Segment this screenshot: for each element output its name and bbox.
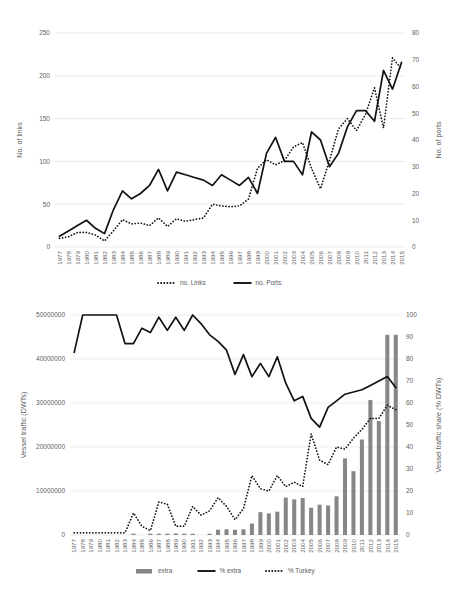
legend: no. Linksno. Ports (158, 279, 281, 286)
x-axis-tick-label: 2005 (308, 250, 315, 264)
x-axis-tick-label: 1993 (200, 250, 207, 264)
x-axis-tick-label: 1989 (172, 538, 179, 552)
x-axis-tick-label: 1992 (197, 538, 204, 552)
x-axis-tick-label: 2002 (282, 538, 289, 552)
x-axis-tick-label: 2015 (392, 538, 399, 552)
y2-axis-ticks-group: 0102030405060708090100 (406, 311, 417, 538)
y-axis-tick-label: 40000000 (36, 355, 65, 362)
x-axis-tick-label: 1999 (254, 250, 261, 264)
y-axis-tick-label: 0 (61, 531, 65, 538)
bar (131, 534, 135, 535)
x-axis-tick-label: 2009 (341, 538, 348, 552)
y2-axis-tick-label: 80 (412, 29, 420, 36)
x-axis-tick-label: 2001 (274, 538, 281, 552)
x-axis-tick-label: 2000 (265, 538, 272, 552)
legend-label: no. Ports (256, 279, 282, 286)
x-axis-tick-label: 1979 (87, 538, 94, 552)
x-axis-tick-label: 2009 (344, 250, 351, 264)
x-axis-tick-label: 2011 (358, 538, 365, 552)
y-axis-tick-label: 50 (43, 201, 51, 208)
legend: extra% extra% Turkey (136, 567, 315, 575)
bar (318, 505, 322, 535)
y2-axis-tick-label: 30 (412, 163, 420, 170)
y2-axis-title: Vessel traffic share (% DWTs) (434, 378, 443, 473)
bar (377, 421, 381, 535)
y2-axis-tick-label: 50 (412, 110, 420, 117)
x-axis-tick-label: 2003 (290, 250, 297, 264)
y2-axis-tick-label: 0 (406, 531, 410, 538)
bar (165, 534, 169, 535)
y2-axis-tick-label: 70 (412, 56, 420, 63)
y2-axis-tick-label: 50 (406, 421, 414, 428)
y-axis-tick-label: 150 (39, 115, 50, 122)
bar (208, 534, 212, 535)
y2-axis-tick-label: 60 (412, 83, 420, 90)
x-axis-tick-label: 2006 (316, 538, 323, 552)
x-axis-tick-label: 1994 (214, 538, 221, 552)
bar (275, 512, 279, 535)
x-axis-tick-label: 2004 (299, 538, 306, 552)
legend-label: % extra (220, 567, 242, 574)
x-axis-tick-label: 1982 (101, 250, 108, 264)
bar (301, 498, 305, 535)
bar (343, 458, 347, 535)
y2-axis-tick-label: 10 (406, 509, 414, 516)
y2-axis-tick-label: 10 (412, 217, 420, 224)
x-axis-tick-label: 1990 (173, 250, 180, 264)
y2-axis-tick-label: 90 (406, 333, 414, 340)
bar (292, 499, 296, 535)
x-axis-tick-label: 1998 (248, 538, 255, 552)
x-axis-tick-label: 2010 (353, 250, 360, 264)
x-axis-tick-label: 2011 (362, 250, 369, 264)
figure-root: 05010015020025001020304050607080No. of l… (0, 0, 460, 594)
x-axis-tick-label: 1994 (209, 250, 216, 264)
x-axis-tick-label: 2005 (307, 538, 314, 552)
x-axis-tick-label: 1995 (223, 538, 230, 552)
y-axis-tick-label: 20000000 (36, 443, 65, 450)
chart-top-svg: 05010015020025001020304050607080No. of l… (0, 0, 460, 300)
line-series--extra (74, 315, 396, 427)
line-series-no.-Ports (60, 62, 402, 236)
x-axis-tick-label: 2006 (317, 250, 324, 264)
x-axis-tick-label: 1985 (128, 250, 135, 264)
y-axis-tick-label: 250 (39, 29, 50, 36)
x-axis-tick-label: 1978 (79, 538, 86, 552)
bar (326, 506, 330, 535)
y2-axis-tick-label: 60 (406, 399, 414, 406)
x-axis-tick-label: 1987 (146, 250, 153, 264)
x-axis-tick-label: 2008 (333, 538, 340, 552)
line-series--Turkey (74, 405, 396, 533)
y-axis-tick-label: 0 (46, 243, 50, 250)
y2-axis-tick-label: 40 (412, 136, 420, 143)
x-axis-ticks-group: 1977197819791980198119821983198419851986… (56, 250, 405, 264)
x-axis-tick-label: 1992 (191, 250, 198, 264)
y2-axis-title: No. of ports (434, 121, 443, 159)
y-axis-title: Vessel traffic (DWTs) (19, 392, 28, 459)
x-axis-tick-label: 1983 (110, 250, 117, 264)
x-axis-tick-label: 1981 (104, 538, 111, 552)
x-axis-tick-label: 2015 (398, 250, 405, 264)
y-axis-tick-label: 30000000 (36, 399, 65, 406)
bar (233, 530, 237, 535)
y2-axis-tick-label: 30 (406, 465, 414, 472)
bar (335, 496, 339, 535)
x-axis-tick-label: 1986 (137, 250, 144, 264)
x-axis-tick-label: 1989 (164, 250, 171, 264)
chart-panel-vessel-traffic: 0100000002000000030000000400000005000000… (0, 300, 460, 594)
x-axis-tick-label: 2007 (324, 538, 331, 552)
bar (351, 471, 355, 535)
bar (241, 529, 245, 535)
x-axis-tick-label: 1980 (96, 538, 103, 552)
y2-axis-tick-label: 80 (406, 355, 414, 362)
y-axis-tick-label: 200 (39, 72, 50, 79)
gridlines-group: 050100150200250 (39, 29, 406, 250)
x-axis-tick-label: 1982 (113, 538, 120, 552)
x-axis-tick-label: 1977 (56, 250, 63, 264)
x-axis-tick-label: 2008 (335, 250, 342, 264)
bar (174, 533, 178, 535)
x-axis-tick-label: 2002 (281, 250, 288, 264)
bar-series-extra (131, 335, 397, 535)
bar (148, 534, 152, 535)
x-axis-tick-label: 2014 (384, 538, 391, 552)
y2-axis-tick-label: 40 (406, 443, 414, 450)
